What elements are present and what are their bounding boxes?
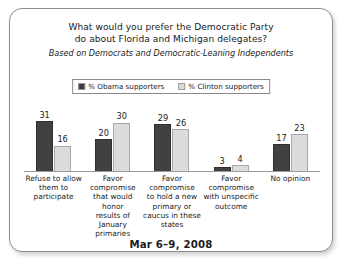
bar-value-label: 26 (176, 119, 186, 128)
bar-value-label: 17 (276, 134, 286, 143)
category-label-line: with unspecific (202, 192, 261, 201)
bar[interactable] (95, 139, 112, 172)
legend-label-obama: % Obama supporters (88, 82, 164, 91)
bar-value-label: 30 (117, 112, 127, 121)
category-label-line: Favor (202, 174, 261, 183)
category-label-line: No opinion (261, 174, 320, 183)
bar-group: 2926 (142, 104, 201, 172)
category-label-line: outcome (202, 202, 261, 211)
category-label: No opinion (261, 174, 320, 183)
bar-column[interactable]: 16 (54, 104, 71, 172)
bar[interactable] (54, 146, 71, 172)
bar[interactable] (36, 121, 53, 172)
bar-column[interactable]: 31 (36, 104, 53, 172)
category-label-line: Favor (83, 174, 142, 183)
bar-group: 3116 (24, 104, 83, 172)
category-label: Favorcompromisethat would honorresults o… (83, 174, 142, 238)
bar-column[interactable]: 17 (273, 104, 290, 172)
category-label: Favorcompromiseto hold a newprimary orca… (142, 174, 201, 229)
chart-baseline-axis (24, 171, 320, 172)
bar[interactable] (154, 124, 171, 172)
bar-column[interactable]: 26 (172, 104, 189, 172)
chart-card: What would you prefer the Democratic Par… (9, 8, 333, 252)
light-swatch-icon (178, 83, 185, 90)
chart-legend: % Obama supporters % Clinton supporters (72, 79, 270, 94)
bar-column[interactable]: 23 (291, 104, 308, 172)
category-label-line: participate (24, 192, 83, 201)
bar[interactable] (172, 129, 189, 172)
chart-title-line-2: do about Florida and Michigan delegates? (10, 33, 332, 45)
chart-subtitle: Based on Democrats and Democratic-Leanin… (10, 47, 332, 60)
chart-title-line-1: What would you prefer the Democratic Par… (10, 21, 332, 33)
category-label-line: Refuse to allow (24, 174, 83, 183)
dark-swatch-icon (78, 83, 85, 90)
bar-group: 1723 (261, 104, 320, 172)
bar-value-label: 23 (294, 124, 304, 133)
category-label-line: compromise (142, 183, 201, 192)
category-label-line: compromise (83, 183, 142, 192)
bar-column[interactable]: 4 (232, 104, 249, 172)
category-label-line: to hold a new (142, 192, 201, 201)
bar[interactable] (273, 144, 290, 172)
bar-column[interactable]: 3 (214, 104, 231, 172)
bar-group: 34 (202, 104, 261, 172)
category-label-line: them to (24, 183, 83, 192)
bar-value-label: 16 (57, 135, 67, 144)
category-label-line: compromise (202, 183, 261, 192)
category-label-line: primary or (142, 202, 201, 211)
bar-group: 2030 (83, 104, 142, 172)
category-label-line: results of January (83, 211, 142, 229)
chart-title-block: What would you prefer the Democratic Par… (10, 21, 332, 59)
bar-column[interactable]: 20 (95, 104, 112, 172)
bar-value-label: 20 (99, 129, 109, 138)
bar[interactable] (291, 134, 308, 172)
category-label: Favorcompromisewith unspecificoutcome (202, 174, 261, 211)
bar[interactable] (113, 123, 130, 172)
legend-label-clinton: % Clinton supporters (188, 82, 263, 91)
category-label-line: primaries (83, 229, 142, 238)
category-label-line: that would honor (83, 192, 142, 210)
bar-value-label: 29 (158, 114, 168, 123)
category-label-line: states (142, 220, 201, 229)
legend-item-clinton[interactable]: % Clinton supporters (178, 82, 263, 91)
bar-value-label: 31 (39, 111, 49, 120)
chart-category-labels: Refuse to allowthem toparticipateFavorco… (24, 174, 320, 234)
category-label-line: Favor (142, 174, 201, 183)
bar-value-label: 3 (220, 157, 225, 166)
bar-value-label: 4 (238, 155, 243, 164)
category-label: Refuse to allowthem toparticipate (24, 174, 83, 202)
chart-plot-area: 311620302926341723 (24, 104, 320, 172)
bar-column[interactable]: 30 (113, 104, 130, 172)
legend-item-obama[interactable]: % Obama supporters (78, 82, 164, 91)
category-label-line: caucus in these (142, 211, 201, 220)
chart-date-footer: Mar 6–9, 2008 (10, 239, 332, 250)
bar-column[interactable]: 29 (154, 104, 171, 172)
